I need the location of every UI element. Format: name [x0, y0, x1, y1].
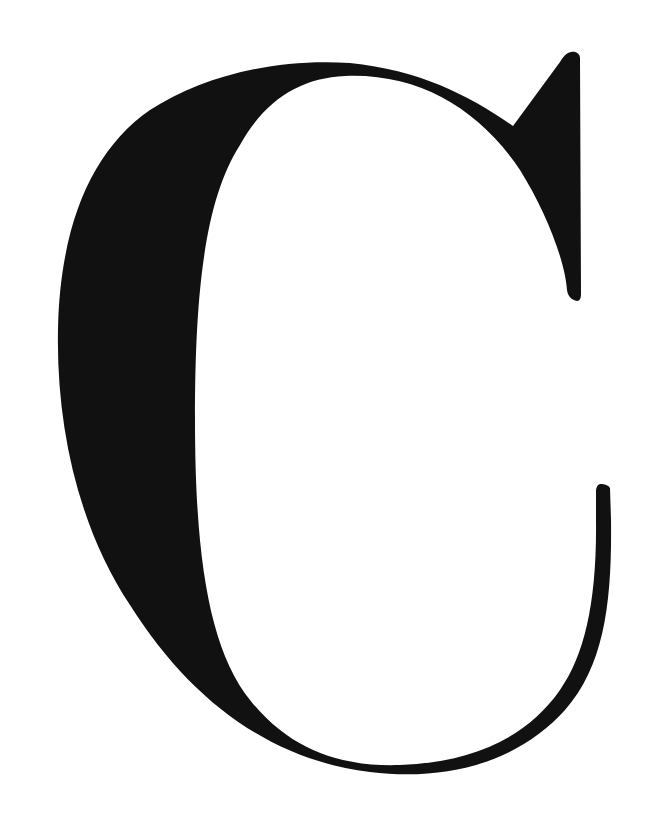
letter-c-icon	[0, 0, 663, 819]
letter-c-glyph: C	[0, 0, 663, 819]
